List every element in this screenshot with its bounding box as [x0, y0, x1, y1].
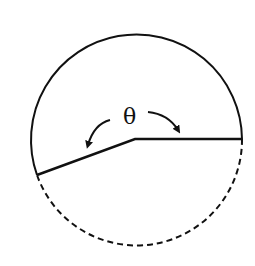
circle-diagram: θ	[0, 0, 255, 266]
angle-theta-label: θ	[123, 106, 136, 128]
left-curved-arrow-icon	[88, 120, 110, 145]
upper-arc	[31, 34, 242, 175]
diagram-canvas	[0, 0, 255, 266]
right-curved-arrow-icon	[148, 112, 178, 130]
bent-chord	[37, 139, 242, 175]
lower-arc-dashed	[37, 139, 242, 245]
